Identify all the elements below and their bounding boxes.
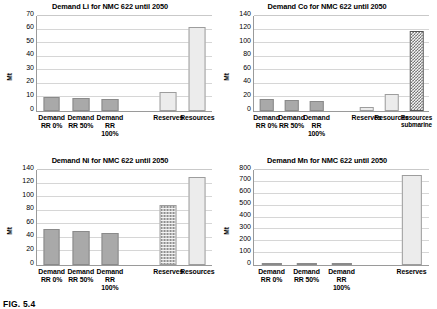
bar-group: Demand RR 0%Demand RR 50%Demand RR 100%R… — [254, 170, 429, 265]
y-axis-label-demand-mn: Mt — [223, 227, 230, 235]
bar-slot — [329, 16, 354, 111]
y-axis-label-demand-ni: Mt — [6, 227, 13, 235]
bar-slot: Demand RR 100% — [95, 170, 124, 265]
plot-area-demand-co: 020406080100120140Demand RR 0%Demand RR … — [253, 16, 429, 112]
bar-slot: Demand RR 50% — [66, 16, 95, 111]
x-axis-tick-label: Resources — [180, 268, 214, 276]
plot-area-demand-mn: 0100200300400500600700800Demand RR 0%Dem… — [253, 170, 429, 266]
y-axis-tick-label: 60 — [26, 217, 34, 224]
chart-panel-demand-co: Demand Co for NMC 622 until 2050 Mt 0204… — [219, 2, 435, 152]
x-axis-tick-label: Demand RR 50% — [67, 268, 94, 284]
plot-area-demand-li: 010203040506070Demand RR 0%Demand RR 50%… — [36, 16, 212, 112]
bar-slot: Demand RR 0% — [254, 170, 289, 265]
y-axis-tick-label: 500 — [239, 199, 251, 206]
bar-slot: Reserves — [154, 16, 183, 111]
bar-slot: Reserves — [354, 16, 379, 111]
bar[interactable] — [384, 94, 399, 111]
bar[interactable] — [409, 31, 424, 111]
bar-slot: Demand RR 100% — [304, 16, 329, 111]
y-axis-tick-label: 0 — [30, 258, 34, 265]
y-axis-tick-label: 140 — [22, 163, 34, 170]
bar[interactable] — [331, 263, 351, 265]
bar[interactable] — [284, 100, 299, 111]
y-axis-label-demand-li: Mt — [6, 73, 13, 81]
y-axis-tick-label: 140 — [239, 9, 251, 16]
bar-slot: Resources — [183, 170, 212, 265]
bar[interactable] — [43, 97, 60, 111]
x-axis-tick-label: Reserves — [153, 114, 183, 122]
bar-group: Demand RR 0%Demand RR 50%Demand RR 100%R… — [254, 16, 429, 111]
bar[interactable] — [101, 99, 118, 111]
plot-area-demand-ni: 020406080100120140Demand RR 0%Demand RR … — [36, 170, 212, 266]
bar[interactable] — [309, 101, 324, 111]
x-axis-tick-label: Demand RR 50% — [278, 114, 305, 130]
x-axis-tick-label: Demand RR 0% — [38, 268, 65, 284]
y-axis-label-demand-co: Mt — [223, 73, 230, 81]
x-axis-tick-label: Demand RR 100% — [303, 114, 330, 139]
bar[interactable] — [160, 92, 177, 111]
bar-slot: Reserves — [394, 170, 429, 265]
chart-title-demand-mn: Demand Mn for NMC 622 until 2050 — [219, 156, 435, 166]
bar[interactable] — [72, 98, 89, 111]
y-axis-tick-label: 400 — [239, 211, 251, 218]
x-axis-tick-label: Demand RR 100% — [328, 268, 355, 293]
x-axis-tick-label: Reserves — [153, 268, 183, 276]
chart-title-demand-li: Demand Li for NMC 622 until 2050 — [2, 2, 218, 12]
y-axis-tick-label: 200 — [239, 234, 251, 241]
x-axis-tick-label: Resources — [180, 114, 214, 122]
bar-slot: Resources submarine — [404, 16, 429, 111]
figure-caption: FIG. 5.4 — [3, 299, 35, 309]
bar-slot: Demand RR 50% — [279, 16, 304, 111]
y-axis-tick-label: 60 — [243, 63, 251, 70]
chart-panel-demand-ni: Demand Ni for NMC 622 until 2050 Mt 0204… — [2, 156, 218, 306]
y-axis-tick-label: 300 — [239, 222, 251, 229]
y-axis-tick-label: 80 — [26, 204, 34, 211]
x-axis-tick-label: Demand RR 100% — [97, 114, 124, 139]
y-axis-tick-label: 700 — [239, 175, 251, 182]
y-axis-tick-label: 40 — [243, 77, 251, 84]
y-axis-tick-label: 20 — [243, 90, 251, 97]
bar[interactable] — [296, 263, 316, 265]
bar[interactable] — [359, 107, 374, 111]
bar[interactable] — [259, 99, 274, 111]
bar[interactable] — [101, 233, 118, 265]
bar-group: Demand RR 0%Demand RR 50%Demand RR 100%R… — [37, 16, 212, 111]
x-axis-tick-label: Demand RR 50% — [293, 268, 320, 284]
bar-slot: Reserves — [154, 170, 183, 265]
bar-slot — [359, 170, 394, 265]
bar[interactable] — [160, 205, 177, 265]
bar-slot: Resources — [183, 16, 212, 111]
bar-slot: Demand RR 100% — [324, 170, 359, 265]
x-axis-tick-label: Demand RR 100% — [97, 268, 124, 293]
bar[interactable] — [189, 177, 206, 265]
x-axis-tick-label: Resources submarine — [401, 114, 432, 129]
chart-title-demand-co: Demand Co for NMC 622 until 2050 — [219, 2, 435, 12]
y-axis-tick-label: 0 — [247, 104, 251, 111]
bar-slot: Demand RR 100% — [95, 16, 124, 111]
bar[interactable] — [72, 231, 89, 265]
bar[interactable] — [261, 263, 281, 265]
bar-slot: Demand RR 50% — [289, 170, 324, 265]
chart-panel-demand-li: Demand Li for NMC 622 until 2050 Mt 0102… — [2, 2, 218, 152]
bar[interactable] — [189, 27, 206, 111]
bar-slot: Demand RR 0% — [37, 16, 66, 111]
x-axis-tick-label: Reserves — [397, 268, 427, 276]
bar-slot: Demand RR 0% — [37, 170, 66, 265]
figure-5-4: Demand Li for NMC 622 until 2050 Mt 0102… — [0, 0, 437, 309]
x-axis-tick-label: Demand RR 0% — [38, 114, 65, 130]
y-axis-tick-label: 80 — [243, 50, 251, 57]
y-axis-tick-label: 30 — [26, 63, 34, 70]
y-axis-tick-label: 40 — [26, 50, 34, 57]
bar[interactable] — [401, 175, 421, 265]
y-axis-tick-label: 120 — [22, 177, 34, 184]
y-axis-tick-label: 0 — [30, 104, 34, 111]
chart-title-demand-ni: Demand Ni for NMC 622 until 2050 — [2, 156, 218, 166]
bar-slot: Resources — [379, 16, 404, 111]
bar[interactable] — [43, 229, 60, 265]
y-axis-tick-label: 70 — [26, 9, 34, 16]
y-axis-tick-label: 60 — [26, 23, 34, 30]
x-axis-tick-label: Demand RR 0% — [258, 268, 285, 284]
y-axis-tick-label: 600 — [239, 187, 251, 194]
bar-slot: Demand RR 0% — [254, 16, 279, 111]
bar-slot: Demand RR 50% — [66, 170, 95, 265]
